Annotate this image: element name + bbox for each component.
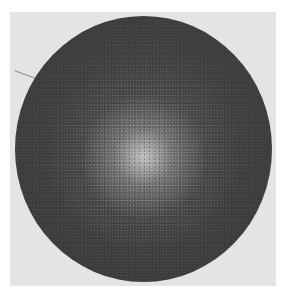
speckle-texture (15, 16, 272, 282)
dark-disk (15, 16, 272, 282)
